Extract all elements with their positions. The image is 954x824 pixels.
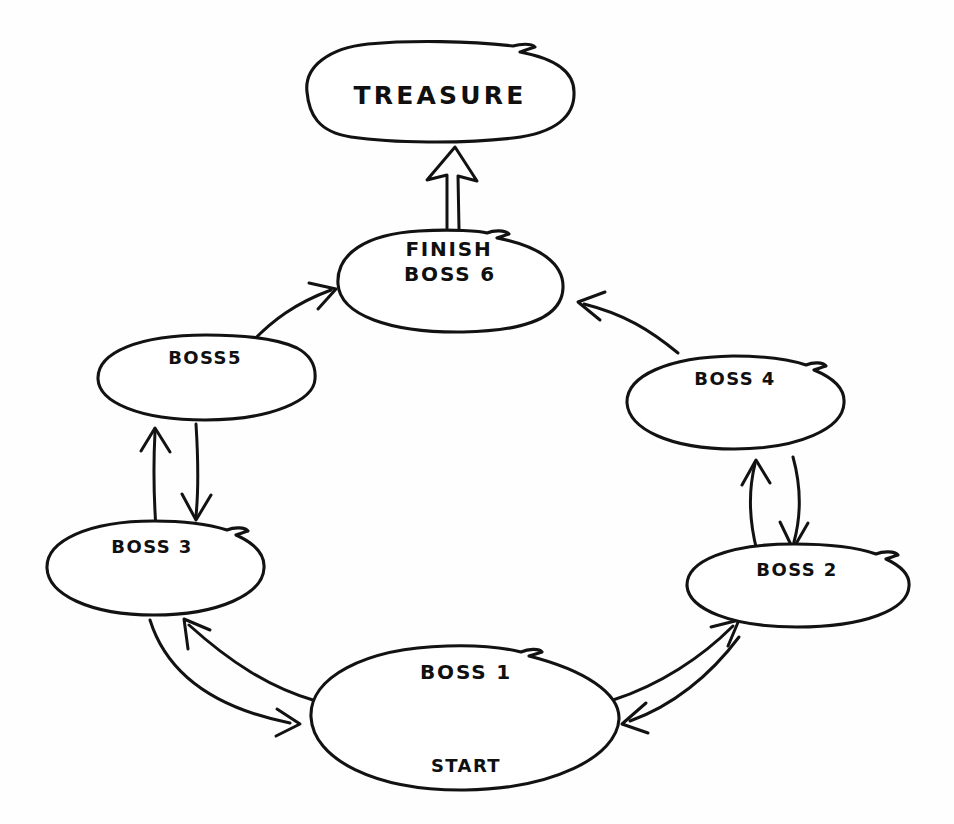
edge-boss5-to-boss6 [249,283,336,345]
node-boss6[interactable]: FINISH BOSS 6 [338,230,563,332]
boss5-label: BOSS5 [168,347,242,368]
boss6-label-line1: FINISH [405,237,492,261]
edge-boss3-to-boss5 [141,428,170,528]
boss1-label-line1: BOSS 1 [420,660,512,684]
node-boss3[interactable]: BOSS 3 [47,521,264,615]
edge-boss3-to-boss1 [150,620,300,736]
treasure-label: TREASURE [354,81,527,110]
node-treasure[interactable]: TREASURE [307,42,574,142]
node-boss1[interactable]: BOSS 1 START [311,646,619,790]
node-boss4[interactable]: BOSS 4 [627,356,844,449]
edge-boss6-to-treasure [427,147,477,229]
edge-boss2-to-boss4 [742,460,770,551]
boss6-label-line2: BOSS 6 [404,262,496,286]
boss2-label: BOSS 2 [756,559,837,580]
edge-boss4-to-boss2 [780,457,808,549]
edge-boss4-to-boss6 [578,292,678,353]
boss3-label: BOSS 3 [111,536,192,557]
boss1-label-line2: START [431,755,501,776]
diagram-canvas: TREASURE FINISH BOSS 6 BOSS5 BOSS 4 BOSS… [0,0,954,824]
edge-boss5-to-boss3 [182,424,211,520]
hand-drawn-diagram: TREASURE FINISH BOSS 6 BOSS5 BOSS 4 BOSS… [0,0,954,824]
node-boss2[interactable]: BOSS 2 [687,544,909,627]
node-boss5[interactable]: BOSS5 [98,335,315,420]
edge-boss2-to-boss1 [622,637,739,733]
boss4-label: BOSS 4 [694,368,775,389]
